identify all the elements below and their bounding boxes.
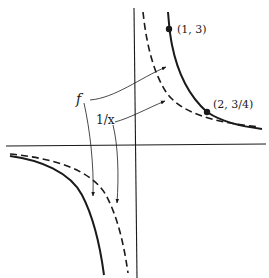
y-axis — [134, 8, 137, 278]
arrow-one-over-x-to-right-branch — [115, 101, 165, 122]
diagram-canvas: f 1/x (1, 3) (2, 3/4) — [0, 0, 269, 278]
point-1-3-marker — [166, 26, 172, 32]
label-f: f — [75, 91, 84, 107]
arrow-f-to-right-branch — [90, 67, 166, 100]
label-point-1-3: (1, 3) — [177, 23, 207, 36]
label-one-over-x-text: 1/x — [96, 113, 115, 127]
arrow-one-over-x-to-left-branch — [113, 125, 118, 203]
curve-f-left — [10, 156, 104, 275]
axes — [6, 8, 266, 278]
arrow-f-to-left-branch — [84, 103, 93, 196]
point-2-3-4-marker — [204, 109, 210, 115]
label-point-2-3-4: (2, 3/4) — [213, 98, 253, 111]
label-one-over-x: 1/x — [96, 113, 115, 127]
curve-one-over-x-left — [10, 154, 128, 273]
